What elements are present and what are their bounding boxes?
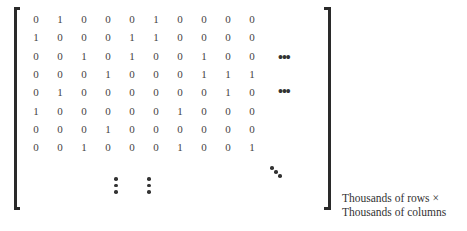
matrix-cell: 1 [144, 31, 168, 43]
matrix-row: 1000001000 [24, 101, 264, 119]
matrix-cell: 1 [96, 68, 120, 80]
caption-line-columns: Thousands of columns [342, 205, 446, 219]
matrix-cell: 0 [72, 31, 96, 43]
matrix-cell: 0 [216, 50, 240, 62]
matrix-cell: 1 [192, 68, 216, 80]
matrix-cell: 0 [216, 13, 240, 25]
matrix-cell: 0 [72, 86, 96, 98]
matrix-cell: 0 [24, 50, 48, 62]
matrix-cell: 0 [144, 86, 168, 98]
matrix-cell: 0 [72, 123, 96, 135]
matrix-cell: 1 [168, 105, 192, 117]
matrix-row: 0001000111 [24, 65, 264, 83]
matrix-cell: 0 [48, 141, 72, 153]
matrix-cell: 1 [216, 86, 240, 98]
matrix-size-caption: Thousands of rows × Thousands of columns [342, 191, 446, 219]
matrix-cell: 0 [192, 31, 216, 43]
matrix-cell: 1 [240, 68, 264, 80]
matrix-cell: 1 [48, 86, 72, 98]
matrix-left-bracket [14, 7, 20, 210]
matrix-cell: 0 [168, 50, 192, 62]
matrix-cell: 0 [216, 123, 240, 135]
matrix-cell: 0 [72, 13, 96, 25]
matrix-cell: 0 [72, 105, 96, 117]
matrix-cell: 0 [48, 123, 72, 135]
matrix-cell: 1 [96, 123, 120, 135]
matrix-cell: 1 [72, 141, 96, 153]
matrix-cell: 0 [168, 123, 192, 135]
matrix-cell: 0 [192, 141, 216, 153]
matrix-cell: 0 [192, 86, 216, 98]
matrix-row: 0100000010 [24, 83, 264, 101]
matrix-cell: 0 [144, 105, 168, 117]
matrix-cell: 0 [240, 105, 264, 117]
matrix-cell: 0 [48, 68, 72, 80]
matrix-cell: 0 [24, 86, 48, 98]
matrix-row: 0001000000 [24, 120, 264, 138]
matrix-cell: 1 [168, 141, 192, 153]
matrix-cell: 1 [48, 13, 72, 25]
matrix-cell: 0 [168, 13, 192, 25]
matrix-cell: 0 [24, 68, 48, 80]
matrix-row: 0010001001 [24, 138, 264, 156]
diagonal-ellipsis-icon [270, 166, 282, 178]
matrix-cell: 0 [120, 13, 144, 25]
matrix-cell: 0 [168, 31, 192, 43]
matrix-cell: 0 [96, 86, 120, 98]
matrix-row: 0100010000 [24, 10, 264, 28]
vertical-ellipsis-icon [114, 177, 118, 194]
matrix-cell: 0 [192, 123, 216, 135]
matrix-cell: 1 [240, 141, 264, 153]
matrix-cell: 0 [240, 31, 264, 43]
matrix-cell: 0 [192, 13, 216, 25]
horizontal-ellipsis-icon: ••• [278, 87, 290, 97]
matrix-cell: 0 [120, 141, 144, 153]
matrix-cell: 1 [120, 50, 144, 62]
matrix-cell: 0 [48, 31, 72, 43]
matrix-cell: 0 [144, 123, 168, 135]
caption-line-rows: Thousands of rows × [342, 191, 446, 205]
matrix-cell: 1 [144, 13, 168, 25]
matrix-cell: 1 [216, 68, 240, 80]
matrix-cell: 0 [48, 50, 72, 62]
matrix-cell: 0 [168, 86, 192, 98]
matrix-cell: 0 [216, 105, 240, 117]
matrix-cell: 0 [240, 13, 264, 25]
matrix-cell: 0 [240, 123, 264, 135]
horizontal-ellipsis-icon: ••• [278, 53, 290, 63]
matrix-row: 1000110000 [24, 28, 264, 46]
matrix-cell: 0 [24, 141, 48, 153]
matrix-cell: 0 [120, 123, 144, 135]
matrix-row: 0010100100 [24, 47, 264, 65]
matrix-cell: 0 [24, 123, 48, 135]
matrix-cell: 0 [240, 50, 264, 62]
matrix-cell: 0 [120, 68, 144, 80]
matrix-cell: 0 [240, 86, 264, 98]
matrix-cell: 0 [24, 13, 48, 25]
matrix-cell: 0 [120, 105, 144, 117]
matrix-cell: 0 [216, 141, 240, 153]
vertical-ellipsis-icon [147, 177, 151, 194]
matrix-cell: 0 [96, 31, 120, 43]
matrix-cell: 0 [192, 105, 216, 117]
matrix-right-bracket [324, 7, 331, 210]
matrix-cell: 1 [72, 50, 96, 62]
matrix-cell: 0 [168, 68, 192, 80]
matrix-cell: 0 [96, 50, 120, 62]
matrix-cell: 1 [24, 31, 48, 43]
matrix-cell: 0 [144, 50, 168, 62]
matrix-cell: 0 [120, 86, 144, 98]
matrix-cell: 1 [24, 105, 48, 117]
matrix-cell: 0 [144, 68, 168, 80]
matrix-cell: 0 [48, 105, 72, 117]
matrix-cell: 1 [192, 50, 216, 62]
matrix-cell: 0 [96, 141, 120, 153]
binary-matrix: 0100010000100011000000101001000001000111… [24, 10, 264, 156]
matrix-cell: 0 [96, 13, 120, 25]
matrix-cell: 0 [144, 141, 168, 153]
matrix-cell: 0 [216, 31, 240, 43]
matrix-cell: 0 [72, 68, 96, 80]
matrix-cell: 1 [120, 31, 144, 43]
matrix-cell: 0 [96, 105, 120, 117]
